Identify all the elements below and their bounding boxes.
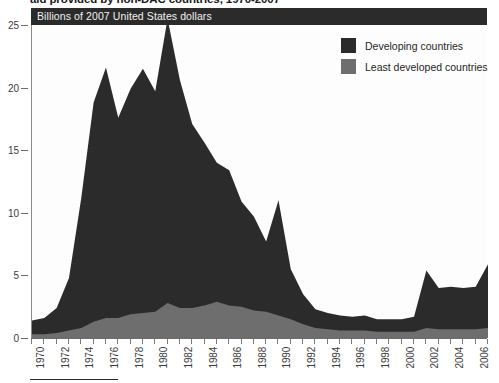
x-tick-label: 1974 — [84, 347, 95, 368]
legend-swatch-icon — [341, 38, 356, 53]
x-tick-mark — [68, 339, 69, 344]
x-tick-mark — [56, 339, 57, 344]
x-tick-label: 1972 — [60, 347, 71, 368]
y-tick-label: 25 — [8, 20, 19, 31]
x-tick-mark — [376, 339, 377, 344]
x-tick-label: 1978 — [134, 347, 145, 368]
x-tick-mark — [154, 339, 155, 344]
x-tick-mark — [302, 339, 303, 344]
x-tick-label: 2000 — [405, 347, 416, 368]
x-tick-mark — [401, 339, 402, 344]
y-tick-mark — [21, 213, 28, 214]
legend-swatch-icon — [341, 59, 356, 74]
x-tick-label: 1976 — [109, 347, 120, 368]
y-tick-mark — [21, 150, 28, 151]
x-tick-mark — [105, 339, 106, 344]
x-tick-mark — [117, 339, 118, 344]
x-tick-mark — [327, 339, 328, 344]
y-tick-label: 5 — [13, 270, 19, 281]
y-tick-mark — [21, 338, 28, 339]
x-tick-mark — [462, 339, 463, 344]
legend-label-developing: Developing countries — [365, 40, 463, 52]
legend-label-least-developed: Least developed countries — [365, 61, 488, 73]
y-tick-mark — [21, 88, 28, 89]
chart-figure: aid provided by non-DAC countries, 1970-… — [0, 0, 499, 383]
x-tick-mark — [438, 339, 439, 344]
x-tick-label: 1996 — [355, 347, 366, 368]
x-tick-label: 1988 — [257, 347, 268, 368]
x-tick-label: 1986 — [232, 347, 243, 368]
chart-legend: Developing countries Least developed cou… — [341, 38, 488, 80]
x-tick-mark — [450, 339, 451, 344]
x-tick-mark — [31, 339, 32, 344]
x-tick-label: 1990 — [281, 347, 292, 368]
x-tick-mark — [487, 339, 488, 344]
x-tick-mark — [388, 339, 389, 344]
y-tick-mark — [21, 275, 28, 276]
x-tick-label: 1994 — [331, 347, 342, 368]
x-tick-mark — [265, 339, 266, 344]
x-tick-mark — [179, 339, 180, 344]
x-tick-mark — [43, 339, 44, 344]
x-tick-mark — [475, 339, 476, 344]
legend-item-developing: Developing countries — [341, 38, 488, 53]
x-tick-mark — [130, 339, 131, 344]
x-tick-mark — [425, 339, 426, 344]
x-tick-mark — [142, 339, 143, 344]
y-tick-label: 15 — [8, 145, 19, 156]
x-tick-label: 1992 — [306, 347, 317, 368]
x-tick-label: 1980 — [158, 347, 169, 368]
x-tick-mark — [413, 339, 414, 344]
x-tick-label: 1998 — [380, 347, 391, 368]
x-tick-mark — [290, 339, 291, 344]
x-tick-label: 1984 — [208, 347, 219, 368]
x-tick-mark — [228, 339, 229, 344]
x-tick-mark — [339, 339, 340, 344]
y-tick-label: 20 — [8, 82, 19, 93]
x-tick-mark — [314, 339, 315, 344]
x-tick-mark — [364, 339, 365, 344]
x-tick-label: 1982 — [183, 347, 194, 368]
y-axis: 0510152025 — [0, 0, 31, 383]
y-axis-caption: Billions of 2007 United States dollars — [37, 10, 212, 22]
figure-title: aid provided by non-DAC countries, 1970-… — [30, 0, 280, 7]
chart-banner: Billions of 2007 United States dollars — [31, 8, 487, 25]
x-tick-mark — [167, 339, 168, 344]
footnote-rule — [30, 379, 118, 380]
x-tick-mark — [80, 339, 81, 344]
y-tick-label: 0 — [13, 333, 19, 344]
x-tick-label: 2004 — [454, 347, 465, 368]
y-tick-label: 10 — [8, 207, 19, 218]
x-tick-mark — [216, 339, 217, 344]
legend-item-least-developed: Least developed countries — [341, 59, 488, 74]
y-tick-mark — [21, 25, 28, 26]
x-tick-mark — [253, 339, 254, 344]
x-tick-mark — [351, 339, 352, 344]
x-tick-label: 2002 — [429, 347, 440, 368]
x-tick-mark — [277, 339, 278, 344]
x-tick-label: 1970 — [35, 347, 46, 368]
x-axis-line — [31, 338, 487, 339]
x-tick-mark — [191, 339, 192, 344]
x-tick-mark — [241, 339, 242, 344]
x-tick-label: 2006 — [479, 347, 490, 368]
x-tick-mark — [204, 339, 205, 344]
x-tick-mark — [93, 339, 94, 344]
